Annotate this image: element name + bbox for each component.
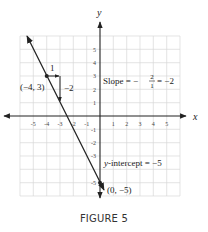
svg-text:2: 2 <box>150 73 154 81</box>
run-label: 1 <box>50 63 55 73</box>
svg-text:Slope = −: Slope = − <box>103 76 138 86</box>
x-axis-label: x <box>192 111 198 122</box>
svg-text:y-intercept = −5: y-intercept = −5 <box>103 158 162 168</box>
svg-text:5: 5 <box>93 47 96 53</box>
svg-text:4: 4 <box>152 121 155 127</box>
svg-text:-4: -4 <box>44 121 49 127</box>
svg-text:2: 2 <box>93 87 96 93</box>
point-b-label: (0, −5) <box>107 185 132 195</box>
svg-text:-1: -1 <box>91 127 96 133</box>
svg-text:1: 1 <box>112 121 115 127</box>
svg-text:= −2: = −2 <box>157 76 174 86</box>
point-0-neg5 <box>98 181 102 185</box>
point-neg4-3 <box>45 74 49 78</box>
svg-text:-5: -5 <box>31 121 36 127</box>
svg-text:3: 3 <box>139 121 142 127</box>
svg-text:-5: -5 <box>91 180 96 186</box>
svg-text:4: 4 <box>93 60 96 66</box>
figure-caption: FIGURE 5 <box>0 213 208 224</box>
point-a-label: (−4, 3) <box>20 82 45 92</box>
svg-text:-2: -2 <box>91 140 96 146</box>
svg-text:-3: -3 <box>91 153 96 159</box>
intercept-annotation: y-intercept = −5 <box>103 158 162 168</box>
rise-label: −2 <box>64 83 74 93</box>
svg-text:1: 1 <box>93 100 96 106</box>
coordinate-plane: x y -5 -4 -3 -2 -1 1 2 3 4 5 5 4 3 2 1 -… <box>0 0 208 232</box>
svg-text:5: 5 <box>165 121 168 127</box>
svg-text:3: 3 <box>93 73 96 79</box>
svg-text:-1: -1 <box>84 121 89 127</box>
svg-text:1: 1 <box>150 82 154 90</box>
y-axis-label: y <box>96 7 102 18</box>
svg-text:-3: -3 <box>58 121 63 127</box>
svg-text:2: 2 <box>125 121 128 127</box>
